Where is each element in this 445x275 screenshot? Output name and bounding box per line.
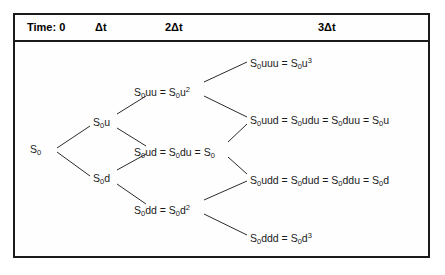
header-separator-rule <box>13 40 430 42</box>
figure-frame <box>13 13 430 258</box>
tree-node-d: S0d <box>93 172 110 186</box>
time-header-1: Δt <box>95 21 107 34</box>
tree-node-ud: S0ud = S0du = S0 <box>134 146 215 160</box>
tree-node-uud: S0uud = S0udu = S0duu = S0u <box>250 114 389 128</box>
tree-node-udd: S0udd = S0dud = S0ddu = S0d <box>250 174 389 188</box>
tree-node-dd: S0dd = S0d2 <box>134 204 190 218</box>
tree-node-ddd: S0ddd = S0d3 <box>250 232 312 246</box>
time-header-0: Time: 0 <box>27 21 65 34</box>
time-header-3: 3Δt <box>318 21 336 34</box>
tree-node-s0: S0 <box>30 143 41 157</box>
tree-node-uu: S0uu = S0u2 <box>134 86 190 100</box>
tree-node-u: S0u <box>93 116 110 130</box>
binomial-tree-figure: Time: 0Δt2Δt3Δt S0S0uS0dS0uu = S0u2S0ud … <box>0 0 445 275</box>
time-header-2: 2Δt <box>165 21 183 34</box>
tree-node-uuu: S0uuu = S0u3 <box>250 57 312 71</box>
